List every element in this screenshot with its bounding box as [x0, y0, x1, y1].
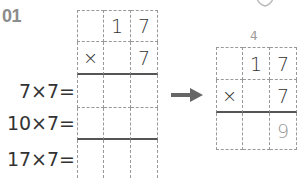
- right-multiplication-grid: 1 7 × 7 9: [216, 47, 297, 150]
- grid-cell: [104, 42, 131, 75]
- character-face-icon: [254, 0, 276, 8]
- row-label-7x7: 7×7=: [19, 80, 75, 102]
- grid-cell: [77, 140, 104, 178]
- grid-cell: [77, 75, 104, 108]
- grid-cell: ×: [216, 80, 243, 113]
- grid-cell: [243, 113, 270, 150]
- left-multiplication-grid: 1 7 × 7: [77, 10, 158, 178]
- grid-cell: 1: [243, 47, 270, 80]
- grid-cell: [104, 108, 131, 140]
- grid-cell: [243, 80, 270, 113]
- row-label-17x7: 17×7=: [7, 148, 75, 170]
- grid-cell: [77, 10, 104, 42]
- grid-cell: [131, 140, 158, 178]
- right-arrow-icon: [170, 87, 204, 103]
- grid-cell: 1: [104, 10, 131, 42]
- grid-cell: 7: [131, 42, 158, 75]
- grid-cell: [216, 47, 243, 80]
- carry-digit: 4: [250, 29, 258, 43]
- grid-cell: [77, 108, 104, 140]
- answer-cell: 9: [270, 113, 297, 150]
- grid-cell: 7: [270, 47, 297, 80]
- grid-cell: 7: [270, 80, 297, 113]
- grid-cell: ×: [77, 42, 104, 75]
- grid-cell: [216, 113, 243, 150]
- grid-cell: 7: [131, 10, 158, 42]
- grid-cell: [104, 140, 131, 178]
- grid-cell: [131, 108, 158, 140]
- problem-number: 01: [2, 6, 21, 27]
- grid-cell: [104, 75, 131, 108]
- grid-cell: [131, 75, 158, 108]
- row-label-10x7: 10×7=: [7, 112, 75, 134]
